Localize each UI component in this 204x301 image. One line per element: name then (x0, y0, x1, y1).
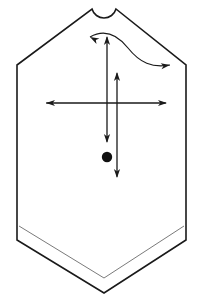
pattern-outline (17, 9, 186, 293)
pattern-diagram-root (0, 0, 204, 301)
center-marker-dot (102, 152, 112, 162)
pattern-diagram-canvas (0, 0, 204, 301)
